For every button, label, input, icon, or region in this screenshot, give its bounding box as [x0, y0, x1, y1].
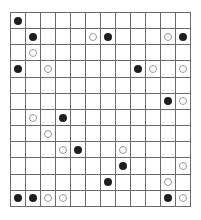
grid-cell[interactable] — [11, 175, 26, 191]
grid-cell[interactable] — [116, 158, 131, 174]
grid-cell[interactable] — [56, 191, 71, 207]
grid-cell[interactable] — [176, 94, 191, 110]
grid-cell[interactable] — [26, 110, 41, 126]
grid-cell[interactable] — [161, 158, 176, 174]
grid-cell[interactable] — [86, 191, 101, 207]
grid-cell[interactable] — [101, 110, 116, 126]
grid-cell[interactable] — [161, 142, 176, 158]
grid-cell[interactable] — [161, 110, 176, 126]
grid-cell[interactable] — [101, 158, 116, 174]
grid-cell[interactable] — [26, 78, 41, 94]
grid-cell[interactable] — [116, 78, 131, 94]
grid-cell[interactable] — [41, 191, 56, 207]
grid-cell[interactable] — [176, 13, 191, 29]
grid-cell[interactable] — [71, 78, 86, 94]
grid-cell[interactable] — [56, 13, 71, 29]
grid-cell[interactable] — [41, 29, 56, 45]
grid-cell[interactable] — [146, 45, 161, 61]
grid-cell[interactable] — [131, 45, 146, 61]
grid-cell[interactable] — [11, 158, 26, 174]
grid-cell[interactable] — [41, 110, 56, 126]
grid-cell[interactable] — [11, 191, 26, 207]
grid-cell[interactable] — [116, 29, 131, 45]
grid-cell[interactable] — [176, 61, 191, 77]
grid-cell[interactable] — [161, 45, 176, 61]
grid-cell[interactable] — [86, 94, 101, 110]
grid-cell[interactable] — [161, 191, 176, 207]
grid-cell[interactable] — [146, 175, 161, 191]
grid-cell[interactable] — [101, 142, 116, 158]
grid-cell[interactable] — [11, 110, 26, 126]
grid-cell[interactable] — [11, 61, 26, 77]
grid-cell[interactable] — [86, 110, 101, 126]
grid-cell[interactable] — [86, 126, 101, 142]
grid-cell[interactable] — [146, 78, 161, 94]
grid-cell[interactable] — [176, 45, 191, 61]
grid-cell[interactable] — [26, 45, 41, 61]
grid-cell[interactable] — [71, 126, 86, 142]
grid-cell[interactable] — [176, 110, 191, 126]
grid-cell[interactable] — [41, 94, 56, 110]
grid-cell[interactable] — [131, 94, 146, 110]
grid-cell[interactable] — [86, 29, 101, 45]
grid-cell[interactable] — [131, 126, 146, 142]
grid-cell[interactable] — [86, 61, 101, 77]
grid-cell[interactable] — [71, 142, 86, 158]
grid-cell[interactable] — [146, 158, 161, 174]
grid-cell[interactable] — [71, 175, 86, 191]
grid-cell[interactable] — [11, 142, 26, 158]
grid-cell[interactable] — [86, 45, 101, 61]
grid-cell[interactable] — [101, 13, 116, 29]
grid-cell[interactable] — [161, 61, 176, 77]
grid-cell[interactable] — [116, 61, 131, 77]
grid-cell[interactable] — [56, 158, 71, 174]
grid-cell[interactable] — [56, 94, 71, 110]
grid-cell[interactable] — [26, 61, 41, 77]
grid-cell[interactable] — [131, 61, 146, 77]
grid-cell[interactable] — [176, 158, 191, 174]
grid-cell[interactable] — [116, 126, 131, 142]
grid-cell[interactable] — [41, 175, 56, 191]
grid-cell[interactable] — [86, 158, 101, 174]
grid-cell[interactable] — [11, 126, 26, 142]
grid-cell[interactable] — [131, 110, 146, 126]
grid-cell[interactable] — [101, 94, 116, 110]
grid-cell[interactable] — [101, 45, 116, 61]
grid-cell[interactable] — [161, 126, 176, 142]
grid-cell[interactable] — [161, 13, 176, 29]
grid-cell[interactable] — [26, 175, 41, 191]
grid-cell[interactable] — [131, 78, 146, 94]
grid-cell[interactable] — [56, 110, 71, 126]
grid-cell[interactable] — [56, 175, 71, 191]
grid-cell[interactable] — [41, 158, 56, 174]
grid-cell[interactable] — [176, 78, 191, 94]
grid-cell[interactable] — [71, 94, 86, 110]
grid-cell[interactable] — [86, 78, 101, 94]
grid-cell[interactable] — [131, 29, 146, 45]
grid-cell[interactable] — [71, 158, 86, 174]
grid-cell[interactable] — [146, 142, 161, 158]
grid-cell[interactable] — [161, 94, 176, 110]
grid-cell[interactable] — [71, 45, 86, 61]
grid-cell[interactable] — [41, 13, 56, 29]
grid-cell[interactable] — [26, 126, 41, 142]
grid-cell[interactable] — [146, 13, 161, 29]
grid-cell[interactable] — [86, 142, 101, 158]
grid-cell[interactable] — [26, 158, 41, 174]
grid-cell[interactable] — [26, 191, 41, 207]
grid-cell[interactable] — [146, 191, 161, 207]
grid-cell[interactable] — [26, 29, 41, 45]
grid-cell[interactable] — [41, 45, 56, 61]
grid-cell[interactable] — [41, 142, 56, 158]
grid-cell[interactable] — [131, 158, 146, 174]
grid-cell[interactable] — [26, 13, 41, 29]
grid-cell[interactable] — [176, 191, 191, 207]
grid-cell[interactable] — [116, 13, 131, 29]
grid-cell[interactable] — [56, 61, 71, 77]
grid-cell[interactable] — [26, 142, 41, 158]
grid-cell[interactable] — [116, 45, 131, 61]
grid-cell[interactable] — [86, 175, 101, 191]
grid-cell[interactable] — [86, 13, 101, 29]
grid-cell[interactable] — [26, 94, 41, 110]
grid-cell[interactable] — [71, 29, 86, 45]
